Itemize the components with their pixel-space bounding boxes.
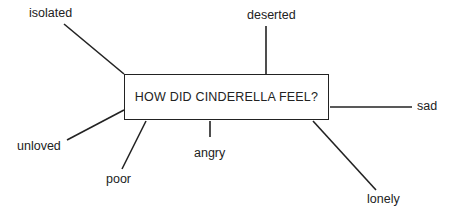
label-unloved: unloved <box>17 139 61 153</box>
central-question-box: HOW DID CINDERELLA FEEL? <box>124 74 329 120</box>
label-angry: angry <box>194 146 225 160</box>
spoke-line-poor <box>122 121 146 169</box>
label-sad: sad <box>417 99 437 113</box>
label-poor: poor <box>106 172 131 186</box>
central-question: HOW DID CINDERELLA FEEL? <box>135 90 318 104</box>
label-lonely: lonely <box>367 192 400 206</box>
spoke-line-lonely <box>313 121 376 190</box>
spoke-line-isolated <box>64 24 124 74</box>
label-isolated: isolated <box>29 6 72 20</box>
spoke-line-unloved <box>67 110 124 140</box>
label-deserted: deserted <box>247 8 296 22</box>
